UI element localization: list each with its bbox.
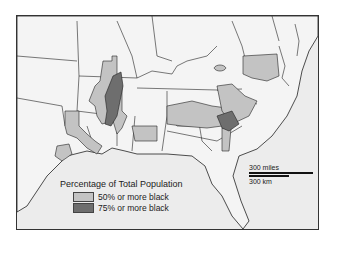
legend-swatch-light [73,192,94,202]
scale-km-label: 300 km [249,178,313,185]
legend-item-50: 50% or more black [73,191,182,202]
scale-bar: 300 miles 300 km [249,164,313,185]
scale-miles-bar [249,172,313,174]
legend-swatch-dark [73,203,94,213]
scale-km-bar [249,175,289,177]
scale-miles-label: 300 miles [249,164,313,171]
kentucky-region [214,65,226,71]
legend-title: Percentage of Total Population [60,179,182,189]
legend: Percentage of Total Population 50% or mo… [60,179,182,213]
legend-label: 50% or more black [98,192,169,202]
legend-label: 75% or more black [98,203,169,213]
legend-item-75: 75% or more black [73,202,182,213]
